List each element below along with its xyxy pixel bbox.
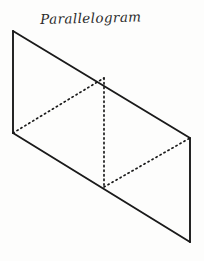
- figure-root: Parallelogram: [0, 0, 204, 261]
- parallelogram-diagram: [0, 0, 204, 261]
- figure-title: Parallelogram: [40, 9, 142, 27]
- bottom-edge: [13, 133, 190, 242]
- dotted-construction-group: [13, 78, 190, 187]
- solid-outline-group: [13, 31, 190, 242]
- left-diagonal-dotted: [13, 78, 104, 133]
- top-edge: [13, 31, 190, 138]
- right-diagonal-dotted: [104, 138, 190, 187]
